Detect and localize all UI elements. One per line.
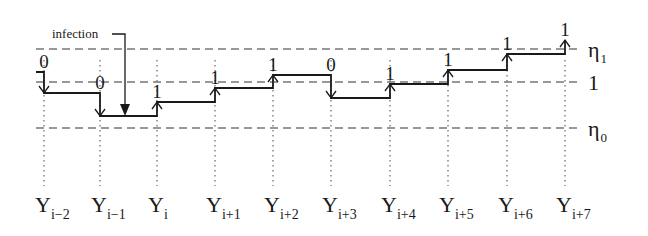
column-labels: Yi−2Yi−1YiYi+1Yi+2Yi+3Yi+4Yi+5Yi+6Yi+7 bbox=[35, 192, 591, 222]
threshold-label-eta1: η1 bbox=[588, 37, 607, 66]
step-signal-diagram: 0011101111 η11η0 Yi−2Yi−1YiYi+1Yi+2Yi+3Y… bbox=[0, 0, 648, 236]
column-label: Yi+4 bbox=[381, 192, 416, 222]
column-label: Yi−2 bbox=[35, 192, 70, 222]
bit-labels: 0011101111 bbox=[39, 19, 570, 102]
bit-label: 0 bbox=[326, 54, 336, 75]
bit-label: 1 bbox=[502, 33, 512, 54]
transition-arrows bbox=[39, 40, 570, 116]
step-signal bbox=[36, 40, 565, 116]
column-label: Yi+6 bbox=[498, 192, 533, 222]
column-label: Yi+3 bbox=[322, 192, 357, 222]
column-label: Yi+7 bbox=[556, 192, 591, 222]
threshold-label-one: 1 bbox=[588, 70, 599, 95]
bit-label: 1 bbox=[152, 81, 162, 102]
column-label: Yi−1 bbox=[91, 192, 126, 222]
bit-label: 1 bbox=[560, 19, 570, 40]
infection-leader-line bbox=[112, 34, 125, 106]
signal-path bbox=[36, 40, 565, 116]
bit-label: 1 bbox=[443, 49, 453, 70]
bit-label: 0 bbox=[39, 51, 49, 72]
bit-label: 1 bbox=[268, 54, 278, 75]
column-label: Yi+5 bbox=[439, 192, 474, 222]
infection-arrow-icon bbox=[120, 104, 130, 116]
infection-label: infection bbox=[52, 26, 99, 41]
infection-annotation: infection bbox=[52, 26, 130, 116]
bit-label: 0 bbox=[95, 72, 105, 93]
column-label: Yi+2 bbox=[264, 192, 299, 222]
column-guides bbox=[44, 60, 565, 186]
threshold-label-eta0: η0 bbox=[588, 116, 607, 145]
column-label: Yi bbox=[148, 192, 168, 222]
bit-label: 1 bbox=[210, 67, 220, 88]
bit-label: 1 bbox=[385, 63, 395, 84]
column-label: Yi+1 bbox=[206, 192, 241, 222]
threshold-labels: η11η0 bbox=[588, 37, 607, 145]
